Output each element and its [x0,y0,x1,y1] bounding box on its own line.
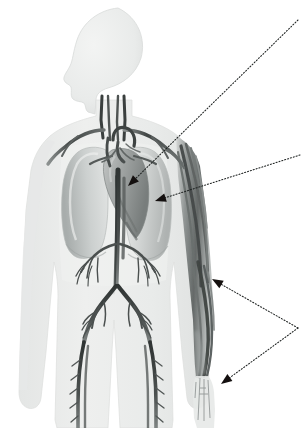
anatomy-figure: Human circulatory system anatomical illu… [0,0,301,428]
left-carotid [124,96,125,140]
anatomy-illustration [0,0,301,428]
callout-hand-arrowhead [221,374,232,384]
callout-forearm-line [217,282,298,328]
left-jugular [117,96,118,140]
callout-forearm-arrowhead [212,279,224,288]
right-lung [62,147,108,258]
right-hand [193,376,215,428]
callout-hand-line [226,328,298,381]
body-silhouette [19,8,209,428]
